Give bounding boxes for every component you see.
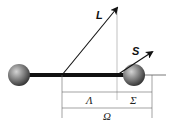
s-vector-label: S [132, 45, 140, 57]
sigma-label: Σ [129, 94, 137, 106]
atom-right [123, 64, 145, 86]
molecule-coupling-diagram: L S Λ Σ Ω [0, 0, 172, 128]
omega-label: Ω [103, 110, 111, 122]
atom-left [8, 64, 30, 86]
l-vector-label: L [96, 9, 103, 21]
l-vector-arrow [62, 8, 117, 75]
lambda-label: Λ [85, 94, 93, 106]
